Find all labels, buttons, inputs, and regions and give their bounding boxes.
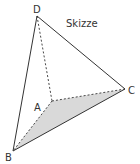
edge-da (37, 16, 52, 101)
pyramid-sketch: D Skizze C A B (0, 0, 140, 164)
vertex-label-d: D (33, 4, 41, 15)
vertex-label-a: A (34, 102, 41, 113)
figure-title: Skizze (66, 18, 98, 29)
vertex-label-b: B (5, 152, 12, 163)
vertex-label-c: C (128, 85, 135, 96)
